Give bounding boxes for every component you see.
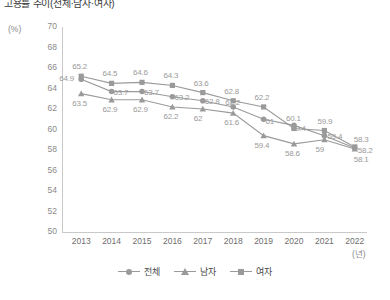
y-axis-unit-label: (%) <box>8 24 21 34</box>
data-point-marker <box>260 132 266 138</box>
data-point-label: 61.6 <box>224 118 239 127</box>
data-point-label: 64.3 <box>163 71 178 80</box>
data-point-label: 62.9 <box>133 105 148 114</box>
data-point-label: 62.8 <box>224 87 239 96</box>
data-point-label: 59.4 <box>327 132 342 141</box>
data-point-marker <box>78 76 84 82</box>
data-point-marker <box>169 104 175 110</box>
data-point-marker <box>322 128 327 133</box>
data-point-label: 64.6 <box>133 68 148 77</box>
data-point-label: 60.4 <box>291 124 306 133</box>
data-point-label: 62.8 <box>205 97 220 106</box>
data-point-marker <box>352 145 358 151</box>
y-axis-tick-label: 54 <box>35 185 57 195</box>
data-point-marker <box>139 80 144 85</box>
x-axis-unit-label: (년) <box>352 247 366 259</box>
y-axis-tick-label: 62 <box>35 103 57 113</box>
data-point-marker <box>261 104 266 109</box>
x-axis-tick-label: 2013 <box>64 236 98 246</box>
data-point-label: 64.5 <box>103 69 118 78</box>
data-point-label: 59.4 <box>255 141 270 150</box>
legend-label-male: 남자 <box>200 265 216 278</box>
data-point-marker <box>108 97 114 103</box>
data-point-label: 63.2 <box>174 93 189 102</box>
data-point-label: 60.1 <box>286 114 301 123</box>
x-axis-tick-label: 2014 <box>95 236 129 246</box>
data-point-marker <box>139 97 145 103</box>
data-point-label: 62.2 <box>255 93 270 102</box>
x-axis-tick-label: 2018 <box>216 236 250 246</box>
data-point-marker <box>170 83 175 88</box>
data-point-marker <box>352 144 357 149</box>
x-axis-tick-label: 2019 <box>247 236 281 246</box>
legend-item-female[interactable]: 여자 <box>230 265 272 278</box>
y-axis-tick-label: 52 <box>35 206 57 216</box>
data-point-label: 63.5 <box>72 99 87 108</box>
chart-legend: 전체 남자 여자 <box>0 265 390 278</box>
data-point-label: 58.3 <box>354 135 369 144</box>
y-axis-tick-label: 50 <box>35 226 57 236</box>
data-point-label: 58.6 <box>285 149 300 158</box>
data-point-label: 63.7 <box>114 88 129 97</box>
data-point-marker <box>78 90 84 96</box>
x-axis-tick-label: 2022 <box>338 236 372 246</box>
data-point-label: 63.6 <box>194 79 209 88</box>
data-point-label: 62.9 <box>103 105 118 114</box>
legend-item-total[interactable]: 전체 <box>118 265 160 278</box>
x-axis-tick-label: 2021 <box>307 236 341 246</box>
data-point-marker <box>322 133 328 139</box>
data-point-marker <box>200 90 205 95</box>
triangle-marker-icon <box>174 271 196 273</box>
y-axis-tick-label: 60 <box>35 124 57 134</box>
y-axis-tick-label: 58 <box>35 144 57 154</box>
chart-title: 고용률 추이(전체·남자·여자) <box>4 0 114 10</box>
data-point-label: 61 <box>266 117 275 126</box>
legend-label-total: 전체 <box>144 265 160 278</box>
data-point-marker <box>200 106 206 112</box>
y-axis-tick-label: 64 <box>35 83 57 93</box>
data-point-label: 62.2 <box>163 112 178 121</box>
y-axis-tick-label: 70 <box>35 21 57 31</box>
data-point-label: 58.1 <box>354 155 369 164</box>
x-axis-tick-label: 2015 <box>125 236 159 246</box>
circle-marker-icon <box>118 271 140 273</box>
series-plot-layer <box>0 0 390 300</box>
x-axis-tick-label: 2017 <box>186 236 220 246</box>
data-point-label: 64.9 <box>59 74 74 83</box>
data-point-label: 59.9 <box>317 117 332 126</box>
chart-container: 고용률 추이(전체·남자·여자) (%) (년) 706866646260585… <box>0 0 390 300</box>
data-point-marker <box>109 81 114 86</box>
x-axis-line <box>62 232 367 233</box>
y-axis-line <box>62 27 63 233</box>
y-axis-tick-label: 66 <box>35 62 57 72</box>
data-point-label: 58.2 <box>358 146 373 155</box>
data-point-label: 62 <box>194 114 203 123</box>
legend-label-female: 여자 <box>256 265 272 278</box>
data-point-label: 62.2 <box>225 98 240 107</box>
data-point-marker <box>291 141 297 147</box>
data-point-label: 59 <box>315 145 324 154</box>
y-axis-tick-label: 56 <box>35 165 57 175</box>
x-axis-tick-label: 2020 <box>277 236 311 246</box>
y-axis-tick-label: 68 <box>35 42 57 52</box>
legend-item-male[interactable]: 남자 <box>174 265 216 278</box>
data-point-marker <box>79 74 84 79</box>
x-axis-tick-label: 2016 <box>155 236 189 246</box>
data-point-label: 65.2 <box>72 62 87 71</box>
square-marker-icon <box>230 271 252 273</box>
data-point-label: 63.7 <box>144 88 159 97</box>
data-point-marker <box>230 110 236 116</box>
